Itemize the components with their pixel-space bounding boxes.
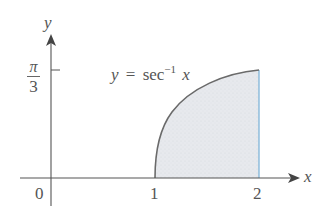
function-label: y = sec−1 x: [111, 64, 190, 83]
fn-lhs: y: [111, 65, 119, 84]
shaded-region: [155, 70, 259, 178]
x-tick-label-0: 0: [35, 185, 44, 202]
x-axis-label: x: [304, 168, 312, 185]
fn-name: sec: [143, 65, 165, 84]
x-tick-label-2: 2: [253, 185, 262, 202]
y-axis-label: y: [44, 14, 52, 31]
y-tick-label-pi-over-3: π 3: [27, 59, 40, 95]
fn-var: x: [182, 65, 190, 84]
tick-denominator: 3: [27, 78, 40, 95]
fn-eq: =: [126, 65, 136, 84]
chart-canvas: [0, 0, 323, 219]
tick-numerator: π: [27, 59, 40, 75]
x-tick-label-1: 1: [150, 185, 159, 202]
fn-sup: −1: [164, 63, 176, 75]
